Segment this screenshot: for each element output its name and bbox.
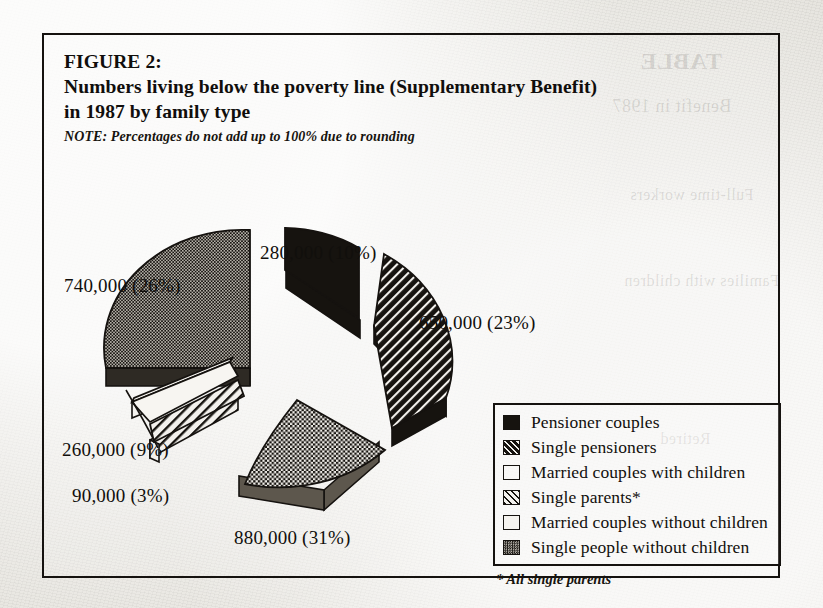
legend-item-single-pensioners[interactable]: Single pensioners [503, 435, 771, 460]
legend-item-single-parents[interactable]: Single parents* [503, 485, 771, 510]
pie-slice-single-people-without-children [104, 230, 250, 368]
figure-title-line-1: Numbers living below the poverty line (S… [64, 74, 762, 99]
legend-item-married-couples-without-children[interactable]: Married couples without children [503, 510, 771, 535]
pie-label-top: 280,000 (10%) [260, 242, 377, 264]
legend-label: Married couples without children [531, 514, 768, 532]
legend-label: Married couples with children [531, 464, 745, 482]
figure-label: FIGURE 2: [64, 49, 762, 74]
legend-item-single-people-without-children[interactable]: Single people without children [503, 535, 771, 560]
legend-label: Single parents* [531, 489, 641, 507]
legend-swatch-checker-icon [503, 465, 520, 480]
figure-frame: FIGURE 2: Numbers living below the pover… [42, 33, 780, 578]
legend-item-married-couples-with-children[interactable]: Married couples with children [503, 460, 771, 485]
pie-label-lower-left-b: 260,000 (9%) [62, 439, 169, 461]
legend: Pensioner couples Single pensioners Marr… [493, 403, 781, 566]
legend-swatch-solid-black-icon [503, 415, 520, 430]
pie-label-upper-left: 740,000 (26%) [64, 275, 181, 297]
legend-swatch-white-icon [503, 515, 520, 530]
figure-heading: FIGURE 2: Numbers living below the pover… [64, 49, 762, 146]
pie-label-lower-left-a: 90,000 (3%) [72, 485, 169, 507]
figure-note: NOTE: Percentages do not add up to 100% … [64, 127, 762, 146]
legend-label: Single pensioners [531, 439, 657, 457]
pie-slice-single-pensioners [374, 254, 452, 428]
figure-footnote: * All single parents [496, 571, 611, 588]
legend-swatch-dark-diagonal-icon [503, 440, 520, 455]
legend-label: Single people without children [531, 539, 749, 557]
legend-swatch-dense-dots-icon [503, 540, 520, 555]
legend-item-pensioner-couples[interactable]: Pensioner couples [503, 410, 771, 435]
pie-label-bottom: 880,000 (31%) [234, 527, 351, 549]
legend-label: Pensioner couples [531, 414, 660, 432]
pie-label-upper-right: 650,000 (23%) [419, 312, 536, 334]
legend-swatch-light-diagonal-icon [503, 490, 520, 505]
figure-title-line-2: in 1987 by family type [64, 99, 762, 124]
